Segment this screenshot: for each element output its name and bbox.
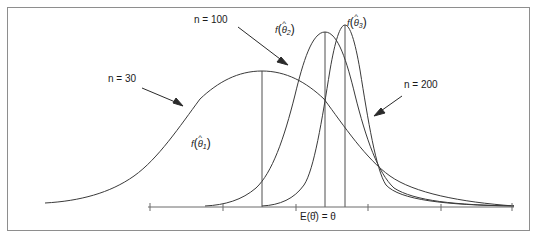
label-n200: n = 200 <box>404 80 438 90</box>
label-n100: n = 100 <box>194 15 228 25</box>
label-density-n200: f(^θ3) <box>347 16 367 29</box>
arrow-head-n30 <box>173 98 183 106</box>
label-density-n100: f(^θ2) <box>275 23 295 36</box>
curve-n200 <box>262 25 514 206</box>
curve-n30 <box>45 71 514 206</box>
curve-n100 <box>205 32 514 206</box>
sampling-distribution-plot <box>0 0 540 239</box>
axis-center-label: E(θ̂) = θ <box>300 212 336 222</box>
figure-container: n = 30 n = 100 n = 200 f(^θ1) f(^θ2) f(^… <box>0 0 540 239</box>
label-density-n30: f(^θ1) <box>191 137 211 150</box>
label-n30: n = 30 <box>108 74 136 84</box>
